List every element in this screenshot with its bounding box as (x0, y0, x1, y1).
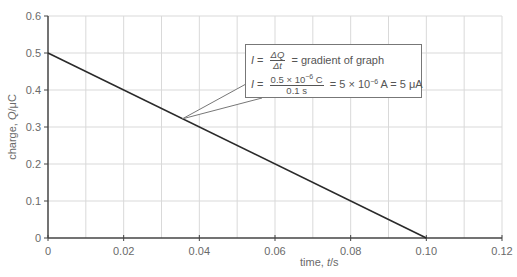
annotation-line-2: I = 0.5 × 10−6 C 0.1 s = 5 × 10−6 A = 5 … (251, 72, 416, 96)
y-axis-label: charge, Q/μC (6, 94, 18, 160)
denominator: Δt (272, 61, 283, 71)
fraction: ΔQ Δt (270, 50, 286, 71)
y-tick-label: 0.3 (26, 121, 41, 133)
rhs-base: = 5 × 10 (327, 78, 370, 90)
x-tick-label: 0.02 (113, 245, 134, 257)
y-tick-label: 0 (35, 232, 41, 244)
numerator-exponent: −6 (305, 73, 313, 80)
x-axis-label: time, t/s (300, 256, 339, 268)
equals: = (254, 78, 267, 90)
chart: 00.020.040.060.080.100.1200.10.20.30.40.… (0, 0, 517, 277)
y-tick-label: 0.1 (26, 195, 41, 207)
numerator-base: 0.5 × 10 (271, 74, 306, 85)
x-tick-label: 0 (45, 245, 51, 257)
y-tick-label: 0.5 (26, 47, 41, 59)
numerator: ΔQ (270, 50, 286, 61)
x-tick-label: 0.10 (416, 245, 437, 257)
y-tick-label: 0.2 (26, 158, 41, 170)
denominator: 0.1 s (285, 86, 308, 96)
x-tick-label: 0.08 (340, 245, 361, 257)
y-tick-label: 0.6 (26, 10, 41, 22)
rhs: = gradient of graph (288, 54, 384, 66)
x-tick-label: 0.12 (491, 245, 512, 257)
rhs-unit: A = 5 μA (378, 78, 423, 90)
numerator: 0.5 × 10−6 C (270, 72, 324, 86)
equals: = (254, 54, 267, 66)
y-tick-label: 0.4 (26, 84, 41, 96)
rhs: = 5 × 10−6 A = 5 μA (327, 78, 423, 90)
fraction: 0.5 × 10−6 C 0.1 s (270, 72, 324, 96)
x-tick-label: 0.06 (264, 245, 285, 257)
x-tick-label: 0.04 (189, 245, 210, 257)
rhs-exponent: −6 (370, 78, 378, 85)
numerator-unit: C (313, 74, 323, 85)
annotation-line-1: I = ΔQ Δt = gradient of graph (251, 48, 416, 72)
annotation-callout: I = ΔQ Δt = gradient of graph I = 0.5 × … (245, 44, 422, 98)
